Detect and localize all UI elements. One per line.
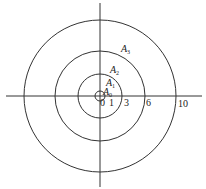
tick-0: 0 (100, 97, 105, 108)
concentric-circles-diagram: A3 A2 A1 A0 0 1 3 6 10 (0, 0, 206, 189)
tick-10: 10 (178, 98, 188, 109)
tick-3: 3 (124, 97, 129, 108)
tick-6: 6 (146, 97, 151, 108)
label-a3: A3 (120, 43, 130, 55)
tick-1: 1 (109, 97, 114, 108)
label-a2: A2 (109, 64, 119, 76)
